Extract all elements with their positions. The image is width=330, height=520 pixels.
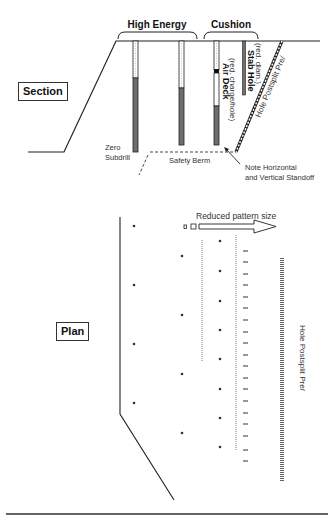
blast-design-diagram: High Energy Cushion Air Deck (red. charg… xyxy=(0,0,330,520)
stab-hole xyxy=(243,41,246,95)
plan-row-2-holes xyxy=(181,255,184,435)
reduced-pattern-label: Reduced pattern size xyxy=(196,211,277,221)
production-hole-1 xyxy=(133,41,138,152)
safety-berm-label: Safety Berm xyxy=(169,156,210,165)
plan-boundary xyxy=(120,217,174,500)
stab-hole-note: (red. diam.) xyxy=(254,43,263,84)
plan-row-1-holes xyxy=(133,225,136,405)
standoff-label-1: Note Horizontal xyxy=(245,163,297,172)
zero-subdrill-label-2: Subdrill xyxy=(105,153,130,162)
standoff-label-2: and Vertical Standoff xyxy=(245,173,315,182)
air-deck-hole xyxy=(214,41,219,145)
high-energy-bracket xyxy=(118,32,197,39)
safety-berm-slope xyxy=(139,155,148,175)
plan-row-3-holes xyxy=(219,240,222,449)
high-energy-label: High Energy xyxy=(128,19,187,30)
cushion-label: Cushion xyxy=(211,19,251,30)
air-deck-note: (red. charge/hole) xyxy=(228,58,237,121)
plan-label: Plan xyxy=(56,322,89,341)
section-label: Section xyxy=(18,82,68,101)
production-hole-2 xyxy=(179,41,184,145)
plan-presplit-label: Hole Postsplit Pre/ xyxy=(298,325,307,392)
zero-subdrill-label-1: Zero xyxy=(105,143,120,152)
cushion-bracket xyxy=(204,32,258,39)
plan-row-4-holes xyxy=(243,251,248,461)
reduced-pattern-arrow xyxy=(184,220,276,233)
